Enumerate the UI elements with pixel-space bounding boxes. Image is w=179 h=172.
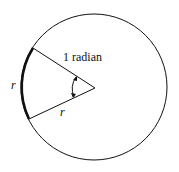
radius-label: r — [60, 105, 65, 119]
title-label: 1 radian — [63, 50, 102, 64]
radian-diagram: 1 radian r r — [0, 0, 179, 172]
arc-label: r — [11, 78, 16, 92]
arc-length-r — [22, 48, 33, 119]
